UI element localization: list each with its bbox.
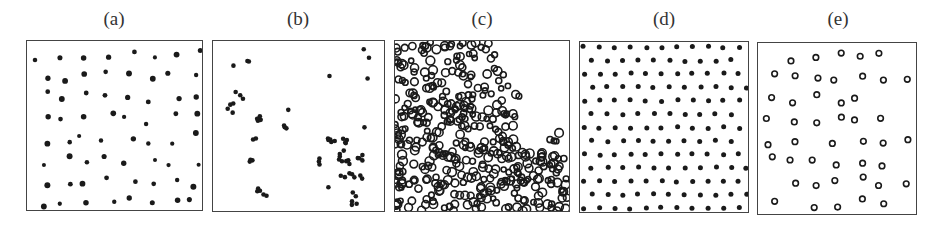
dots-b [213,41,384,211]
panel-c [394,40,570,212]
panel-d [579,41,749,213]
panel-e [757,42,917,215]
panel-a [26,40,203,211]
network-c [395,41,569,211]
lattice-d [580,42,748,212]
label-e: (e) [808,8,868,30]
label-a: (a) [84,8,144,30]
label-b: (b) [268,8,328,30]
dots-a [27,41,202,210]
rings-e [758,43,916,214]
panel-b [212,40,385,212]
label-d: (d) [634,8,694,30]
label-c: (c) [452,8,512,30]
